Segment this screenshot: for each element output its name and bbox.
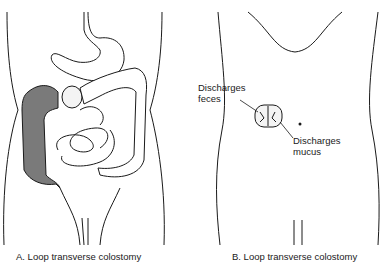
stoma-a [62, 86, 82, 108]
label-line: feces [198, 93, 246, 104]
caption-panel-a: A. Loop transverse colostomy [16, 251, 141, 262]
diagram-canvas [0, 0, 384, 267]
umbilicus [299, 123, 302, 126]
stoma-b [255, 105, 282, 127]
unshaded-colon [80, 68, 147, 177]
shaded-colon [22, 86, 60, 188]
label-discharges-mucus: Discharges mucus [293, 135, 341, 157]
label-line: Discharges [198, 82, 246, 93]
panel-b-body-outline [217, 12, 380, 245]
label-line: mucus [293, 146, 341, 157]
label-discharges-feces: Discharges feces [198, 82, 246, 104]
caption-panel-b: B. Loop transverse colostomy [232, 251, 357, 262]
stomach [51, 12, 124, 81]
small-intestine [57, 107, 115, 166]
label-line: Discharges [293, 135, 341, 146]
